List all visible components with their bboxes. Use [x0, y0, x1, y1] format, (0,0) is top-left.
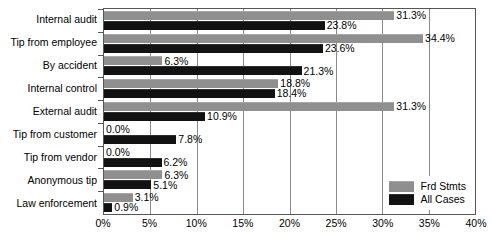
- bar-row[interactable]: 23.8%: [104, 21, 475, 30]
- y-axis-tick: [98, 55, 104, 56]
- x-tick-label: 5%: [142, 218, 157, 229]
- legend-item-frd-stmts[interactable]: Frd Stmts: [389, 181, 466, 192]
- bar-row[interactable]: 7.8%: [104, 135, 475, 144]
- bar-group: 0.0%7.8%: [104, 123, 475, 146]
- y-axis-tick: [98, 146, 104, 147]
- bar-value-label: 31.3%: [396, 101, 426, 112]
- y-axis-tick: [98, 191, 104, 192]
- bar-row[interactable]: 6.2%: [104, 158, 475, 167]
- bar[interactable]: [104, 34, 423, 43]
- bar-group: 31.3%10.9%: [104, 100, 475, 123]
- bar[interactable]: [104, 203, 112, 212]
- bar[interactable]: [104, 170, 162, 179]
- category-label: By accident: [0, 54, 101, 77]
- bar-value-label: 34.4%: [425, 33, 455, 44]
- category-label: Tip from vendor: [0, 146, 101, 169]
- bar-row[interactable]: 31.3%: [104, 102, 475, 111]
- legend-label: All Cases: [420, 194, 464, 205]
- bar-row[interactable]: 0.0%: [104, 148, 475, 157]
- category-label: External audit: [0, 100, 101, 123]
- bar-value-label: 23.6%: [325, 43, 355, 54]
- bar[interactable]: [104, 21, 325, 30]
- bar-group: 0.0%6.2%: [104, 146, 475, 169]
- bar-row[interactable]: 18.4%: [104, 89, 475, 98]
- bar-value-label: 7.8%: [178, 134, 202, 145]
- bar-row[interactable]: 34.4%: [104, 34, 475, 43]
- bar-group: 31.3%23.8%: [104, 9, 475, 32]
- x-tick-label: 25%: [326, 218, 347, 229]
- bar-row[interactable]: 10.9%: [104, 112, 475, 121]
- bar-value-label: 31.3%: [396, 10, 426, 21]
- bar-row[interactable]: 21.3%: [104, 66, 475, 75]
- x-tick-label: 40%: [465, 218, 486, 229]
- x-tick-label: 0%: [95, 218, 110, 229]
- bar-value-label: 6.3%: [164, 56, 188, 67]
- bar-group: 34.4%23.6%: [104, 32, 475, 55]
- category-axis-labels: Internal auditTip from employeeBy accide…: [0, 8, 101, 215]
- bar-value-label: 0.0%: [106, 147, 130, 158]
- category-label: Internal audit: [0, 8, 101, 31]
- gray-swatch-icon: [389, 181, 414, 192]
- y-axis-tick: [98, 77, 104, 78]
- category-label: Law enforcement: [0, 192, 101, 215]
- bar-group: 6.3%21.3%: [104, 55, 475, 78]
- bar[interactable]: [104, 56, 162, 65]
- legend: Frd Stmts All Cases: [385, 176, 471, 210]
- bar-value-label: 21.3%: [304, 66, 334, 77]
- bar[interactable]: [104, 102, 394, 111]
- y-axis-tick: [98, 100, 104, 101]
- plot-area: 31.3%23.8%34.4%23.6%6.3%21.3%18.8%18.4%3…: [103, 8, 476, 215]
- y-axis-tick: [98, 9, 104, 10]
- bar[interactable]: [104, 135, 176, 144]
- legend-item-all-cases[interactable]: All Cases: [389, 194, 466, 205]
- y-axis-tick: [98, 123, 104, 124]
- bar[interactable]: [104, 89, 275, 98]
- legend-label: Frd Stmts: [420, 181, 466, 192]
- bar[interactable]: [104, 112, 205, 121]
- bar-value-label: 3.1%: [135, 192, 159, 203]
- x-tick-label: 15%: [232, 218, 253, 229]
- bar-row[interactable]: 23.6%: [104, 44, 475, 53]
- bar-value-label: 18.4%: [277, 88, 307, 99]
- bar-value-label: 23.8%: [327, 20, 357, 31]
- bar-value-label: 10.9%: [207, 111, 237, 122]
- bar-value-label: 5.1%: [153, 180, 177, 191]
- bar[interactable]: [104, 158, 162, 167]
- bar[interactable]: [104, 79, 278, 88]
- x-tick-label: 10%: [186, 218, 207, 229]
- bar-group: 18.8%18.4%: [104, 77, 475, 100]
- category-label: Tip from employee: [0, 31, 101, 54]
- bar-row[interactable]: 0.0%: [104, 125, 475, 134]
- bar-chart: Internal auditTip from employeeBy accide…: [0, 0, 492, 251]
- x-tick-label: 20%: [279, 218, 300, 229]
- category-label: Internal control: [0, 77, 101, 100]
- bar-value-label: 0.9%: [114, 202, 138, 213]
- bar-row[interactable]: 31.3%: [104, 11, 475, 20]
- y-axis-tick: [98, 168, 104, 169]
- bar[interactable]: [104, 180, 151, 189]
- category-label: Anonymous tip: [0, 169, 101, 192]
- bar[interactable]: [104, 66, 302, 75]
- x-tick-label: 30%: [372, 218, 393, 229]
- bar[interactable]: [104, 44, 323, 53]
- x-axis-tick-labels: 0%5%10%15%20%25%30%35%40%: [103, 218, 476, 234]
- x-tick-label: 35%: [419, 218, 440, 229]
- y-axis-tick: [98, 32, 104, 33]
- bar-value-label: 0.0%: [106, 124, 130, 135]
- bar-row[interactable]: 6.3%: [104, 56, 475, 65]
- bar-value-label: 6.2%: [164, 157, 188, 168]
- category-label: Tip from customer: [0, 123, 101, 146]
- black-swatch-icon: [389, 194, 414, 205]
